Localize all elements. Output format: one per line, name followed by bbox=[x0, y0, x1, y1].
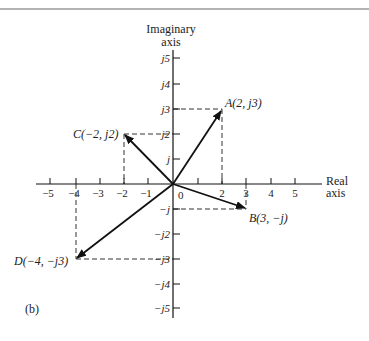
y-tick-label: j2 bbox=[159, 128, 170, 140]
point-label-c: C(−2, j2) bbox=[73, 127, 118, 141]
x-tick-label: −3 bbox=[92, 187, 104, 199]
y-tick-label: −j bbox=[160, 203, 170, 215]
y-tick-label: j5 bbox=[159, 52, 170, 64]
complex-plane-diagram: Imaginary axis Real axis −5 −4 −3 −2 −1 … bbox=[0, 0, 369, 341]
x-tick-label: 3 bbox=[243, 187, 249, 199]
point-label-d: D(−4, −j3) bbox=[13, 254, 68, 268]
x-tick-labels: −5 −4 −3 −2 −1 2 3 4 5 bbox=[42, 187, 298, 199]
x-tick-label: −1 bbox=[140, 187, 152, 199]
imaginary-axis-title-2: axis bbox=[161, 35, 181, 49]
y-tick-label: −j5 bbox=[154, 302, 170, 314]
y-tick-label: j4 bbox=[159, 78, 170, 90]
point-label-a: A(2, j3) bbox=[224, 96, 262, 110]
real-axis-title-2: axis bbox=[326, 186, 346, 200]
point-label-b: B(3, −j) bbox=[249, 211, 288, 225]
panel-label: (b) bbox=[25, 302, 39, 316]
vector-b bbox=[173, 184, 245, 208]
origin-label: 0 bbox=[178, 189, 184, 201]
vector-c bbox=[125, 135, 173, 184]
y-tick-label: −j3 bbox=[154, 253, 170, 265]
x-tick-label: −5 bbox=[42, 187, 54, 199]
vector-a bbox=[173, 111, 221, 184]
x-tick-label: 4 bbox=[268, 187, 274, 199]
y-tick-label: −j4 bbox=[154, 278, 170, 290]
y-tick-label: j3 bbox=[159, 103, 170, 115]
x-tick-label: 5 bbox=[292, 187, 298, 199]
imaginary-axis-title-1: Imaginary bbox=[146, 22, 195, 36]
y-tick-label: −j2 bbox=[154, 228, 170, 240]
y-tick-labels: j j2 j3 j4 j5 −j −j2 −j3 −j4 −j5 bbox=[154, 52, 170, 314]
x-tick-label: −2 bbox=[116, 187, 128, 199]
x-tick-label: 2 bbox=[219, 187, 225, 199]
x-tick-label: −4 bbox=[68, 187, 80, 199]
y-tick-label: j bbox=[165, 153, 170, 165]
